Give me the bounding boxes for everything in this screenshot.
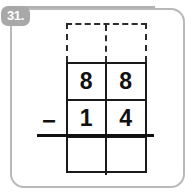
regroup-row: [66, 23, 147, 62]
answer-rule: [37, 134, 154, 137]
answer-row: [68, 138, 145, 175]
digit-grid: 8 8 1 4: [66, 62, 147, 173]
subtrahend-cell-ones: 4: [107, 101, 146, 136]
answer-cell-ones[interactable]: [107, 138, 146, 175]
answer-cell-tens[interactable]: [68, 138, 107, 175]
minuend-cell-tens: 8: [68, 64, 107, 99]
subtrahend-cell-tens: 1: [68, 101, 107, 136]
minuend-row: 8 8: [68, 64, 145, 101]
minus-sign: −: [41, 110, 57, 132]
regroup-cell-ones[interactable]: [107, 25, 146, 62]
minuend-cell-ones: 8: [107, 64, 146, 99]
subtrahend-row: 1 4: [68, 101, 145, 138]
regroup-cell-tens[interactable]: [68, 25, 107, 62]
worksheet-problem-card: 31. − 8 8 1 4: [0, 0, 155, 196]
problem-number-badge: 31.: [1, 6, 30, 26]
